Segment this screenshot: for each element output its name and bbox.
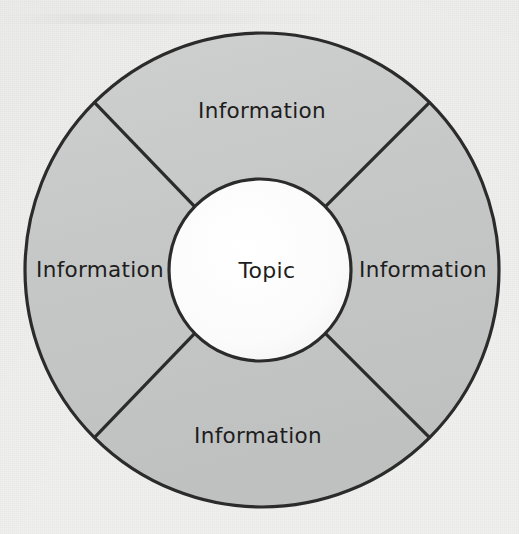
diagram-canvas: Information Information Information Info… — [0, 0, 519, 534]
center-topic-label[interactable]: Topic — [238, 258, 296, 283]
wheel-diagram: Information Information Information Info… — [0, 0, 519, 534]
segment-label-right[interactable]: Information — [359, 257, 487, 282]
segment-label-top[interactable]: Information — [198, 98, 326, 123]
segment-label-left[interactable]: Information — [36, 257, 164, 282]
segment-label-bottom[interactable]: Information — [194, 423, 322, 448]
